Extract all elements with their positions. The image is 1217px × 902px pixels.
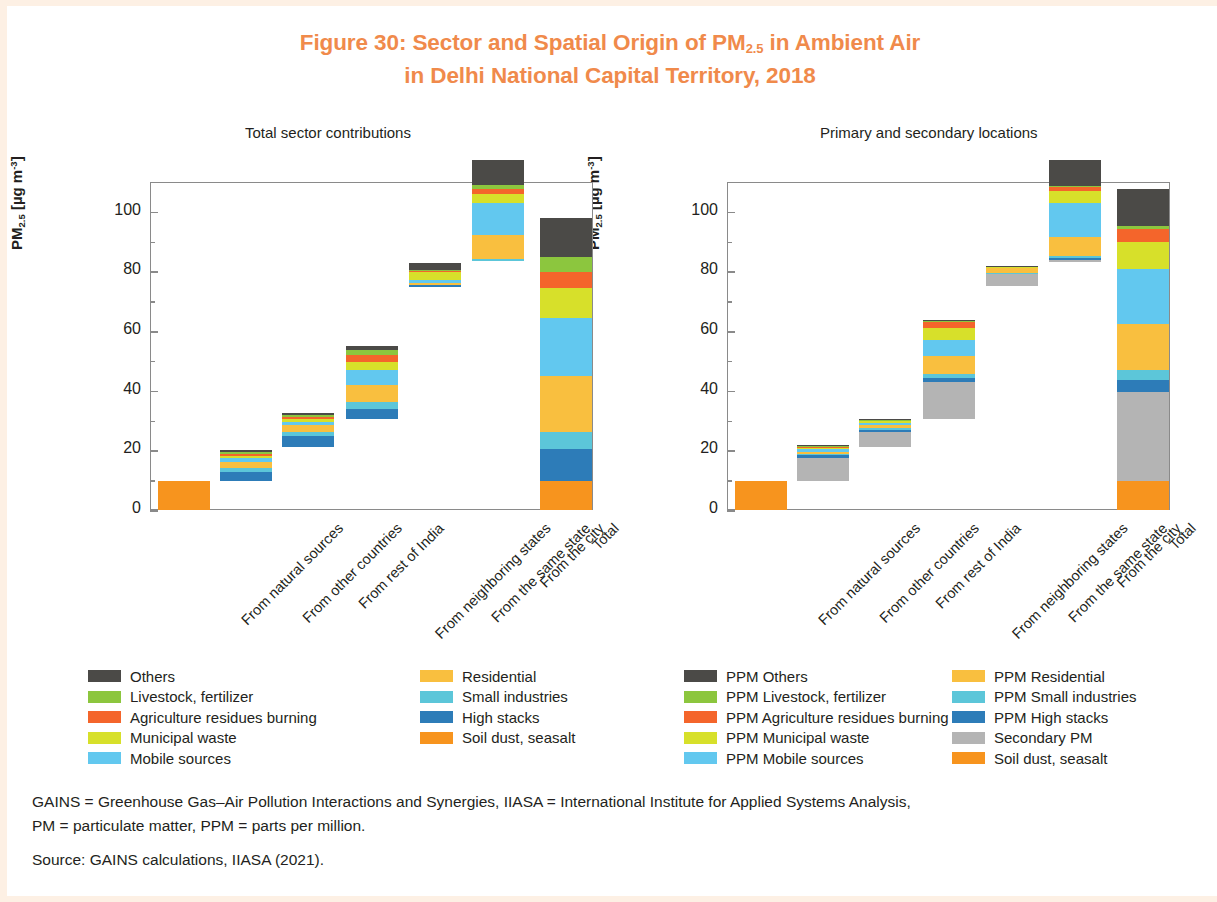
y-tick-mark-minor [150, 361, 155, 363]
bar-segment [346, 402, 398, 409]
bar-segment [220, 462, 272, 468]
y-tick-mark-minor [150, 242, 155, 244]
legend-label: PPM Mobile sources [726, 750, 864, 767]
legend-label: PPM Livestock, fertilizer [726, 688, 886, 705]
bar-segment [409, 272, 461, 280]
bar-segment [797, 449, 849, 451]
bar-segment [346, 385, 398, 402]
bar-segment [346, 409, 398, 419]
y-tick-mark [150, 391, 158, 393]
legend-swatch [684, 691, 717, 703]
bar-segment [1049, 191, 1101, 203]
legend-swatch [952, 732, 985, 744]
bar-segment [346, 350, 398, 355]
legend-label: High stacks [462, 709, 540, 726]
bar-segment [540, 218, 592, 257]
legend-item: Soil dust, seasalt [420, 728, 575, 749]
bar-segment [220, 450, 272, 451]
legend-swatch [952, 670, 985, 682]
bar-from-the-same-state [409, 182, 461, 510]
figure-title-subscript: 2.5 [746, 41, 764, 56]
legend-swatch [684, 670, 717, 682]
bar-segment [797, 458, 849, 481]
legend-swatch [88, 752, 121, 764]
figure-title-line2: in Delhi National Capital Territory, 201… [404, 63, 815, 88]
bar-segment [923, 320, 975, 321]
bar-segment [220, 452, 272, 454]
bar-segment [797, 448, 849, 449]
bar-total [540, 182, 592, 510]
legend-label: Agriculture residues burning [130, 709, 317, 726]
legend-item: PPM Residential [952, 666, 1137, 687]
bar-segment [859, 419, 911, 420]
bar-segment [282, 417, 334, 419]
bar-segment [472, 160, 524, 185]
bar-segment [409, 285, 461, 286]
legend-swatch [420, 711, 453, 723]
bar-segment [1117, 269, 1169, 324]
y-tick-mark [727, 510, 735, 512]
bar-segment [1049, 203, 1101, 237]
bar-segment [346, 346, 398, 350]
bar-segment [986, 268, 1038, 273]
bar-segment [797, 452, 849, 454]
y-tick-label: 20 [101, 440, 141, 456]
subplot-title-right: Primary and secondary locations [820, 124, 1038, 141]
legend-item: PPM Agriculture residues burning [684, 707, 949, 728]
note-abbreviations-line2: PM = particulate matter, PPM = parts per… [32, 814, 1192, 838]
legend-label: Soil dust, seasalt [994, 750, 1107, 767]
legend-item: Secondary PM [952, 728, 1137, 749]
y-tick-mark [150, 271, 158, 273]
legend-label: Soil dust, seasalt [462, 729, 575, 746]
legend-item: Residential [420, 666, 575, 687]
bar-segment [1117, 189, 1169, 225]
y-tick-label: 60 [101, 321, 141, 337]
bar-segment [1049, 237, 1101, 256]
legend-item: PPM Municipal waste [684, 728, 949, 749]
note-source: Source: GAINS calculations, IIASA (2021)… [32, 848, 1192, 872]
bar-segment [923, 340, 975, 356]
bar-segment [540, 481, 592, 510]
bar-total [1117, 182, 1169, 510]
figure-root: Figure 30: Sector and Spatial Origin of … [0, 0, 1217, 902]
y-axis-label-left: PM2.5 [µg m-3] [8, 156, 25, 250]
bar-segment [923, 328, 975, 340]
y-tick-mark-minor [727, 301, 732, 303]
bar-segment [282, 413, 334, 415]
legend-swatch [420, 670, 453, 682]
legend-label: Mobile sources [130, 750, 231, 767]
legend-label: Others [130, 668, 175, 685]
bar-segment [1117, 242, 1169, 269]
legend-item: Mobile sources [88, 748, 317, 769]
bar-segment [282, 422, 334, 425]
bar-segment [472, 259, 524, 260]
bar-segment [220, 456, 272, 458]
bar-segment [1049, 256, 1101, 258]
legend-swatch [88, 732, 121, 744]
bar-segment [1117, 324, 1169, 371]
legend-item: PPM Others [684, 666, 949, 687]
y-tick-mark-minor [727, 421, 732, 423]
bar-segment [220, 472, 272, 481]
chart-panel-right: 020406080100 From natural sourcesFrom ot… [682, 182, 1170, 512]
legend-swatch [420, 691, 453, 703]
bar-from-the-city [472, 182, 524, 510]
bar-segment [859, 430, 911, 433]
bar-segment [1117, 226, 1169, 230]
bar-segment [859, 432, 911, 447]
legend-label: Livestock, fertilizer [130, 688, 253, 705]
bar-segment [986, 274, 1038, 286]
bar-segment [797, 445, 849, 446]
legend-item: Small industries [420, 687, 575, 708]
y-tick-label: 80 [678, 261, 718, 277]
legend-item: PPM Small industries [952, 687, 1137, 708]
y-tick-mark [727, 391, 735, 393]
bar-segment [1117, 392, 1169, 481]
y-tick-mark [727, 450, 735, 452]
bar-segment [923, 382, 975, 418]
bar-segment [1117, 380, 1169, 392]
bar-segment [346, 355, 398, 362]
y-tick-mark-minor [150, 301, 155, 303]
figure-title-line1-post: in Ambient Air [763, 30, 920, 55]
y-tick-label: 60 [678, 321, 718, 337]
